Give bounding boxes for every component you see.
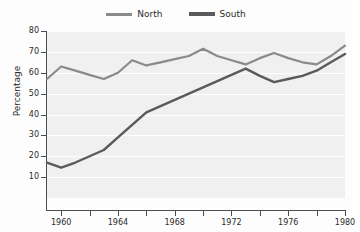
gridline-y <box>47 94 345 95</box>
y-axis-tick <box>41 177 46 178</box>
y-axis-tick <box>41 31 46 32</box>
x-axis-tick-label: 1976 <box>268 218 308 227</box>
legend-swatch-south <box>189 12 215 16</box>
gridline-y <box>47 177 345 178</box>
y-axis-tick <box>41 73 46 74</box>
x-axis-tick <box>260 211 261 216</box>
y-axis-tick-label: 70 <box>29 48 39 56</box>
y-axis-line <box>46 31 47 211</box>
y-axis-tick <box>41 135 46 136</box>
chart-legend: North South <box>0 4 352 24</box>
x-axis-tick <box>61 211 62 216</box>
x-axis-tick <box>118 211 119 216</box>
y-axis-tick <box>41 94 46 95</box>
x-axis-tick <box>90 211 91 216</box>
y-axis-tick <box>41 156 46 157</box>
x-axis-tick-label: 1960 <box>41 218 81 227</box>
y-axis-tick-label: 40 <box>29 111 39 119</box>
gridline-y <box>47 31 345 32</box>
x-axis-line <box>46 210 346 211</box>
y-axis-title: Percentage <box>12 41 22 141</box>
y-axis-tick-label: 10 <box>29 173 39 181</box>
legend-item-north: North <box>106 9 162 19</box>
x-axis-tick <box>345 211 346 216</box>
legend-label-south: South <box>220 9 246 19</box>
gridline-y <box>47 115 345 116</box>
plot-area <box>47 31 345 198</box>
y-axis-tick-label: 20 <box>29 152 39 160</box>
gridline-y <box>47 156 345 157</box>
legend-label-north: North <box>137 9 162 19</box>
x-axis-tick <box>231 211 232 216</box>
y-axis-tick-label: 60 <box>29 69 39 77</box>
x-axis-tick <box>146 211 147 216</box>
x-axis-tick <box>203 211 204 216</box>
x-axis-tick-label: 1968 <box>155 218 195 227</box>
legend-item-south: South <box>189 9 246 19</box>
gridline-y <box>47 73 345 74</box>
gridline-y <box>47 135 345 136</box>
gridline-y <box>47 52 345 53</box>
x-axis-tick-label: 1964 <box>98 218 138 227</box>
x-axis-tick <box>317 211 318 216</box>
y-axis-tick <box>41 115 46 116</box>
legend-swatch-north <box>106 13 132 16</box>
x-axis-tick <box>175 211 176 216</box>
x-axis-tick-label: 1972 <box>211 218 251 227</box>
x-axis-tick-label: 1980 <box>325 218 360 227</box>
y-axis-tick <box>41 52 46 53</box>
x-axis-tick <box>288 211 289 216</box>
y-axis-tick-label: 80 <box>29 27 39 35</box>
y-axis-tick-label: 50 <box>29 90 39 98</box>
y-axis-tick-label: 30 <box>29 131 39 139</box>
